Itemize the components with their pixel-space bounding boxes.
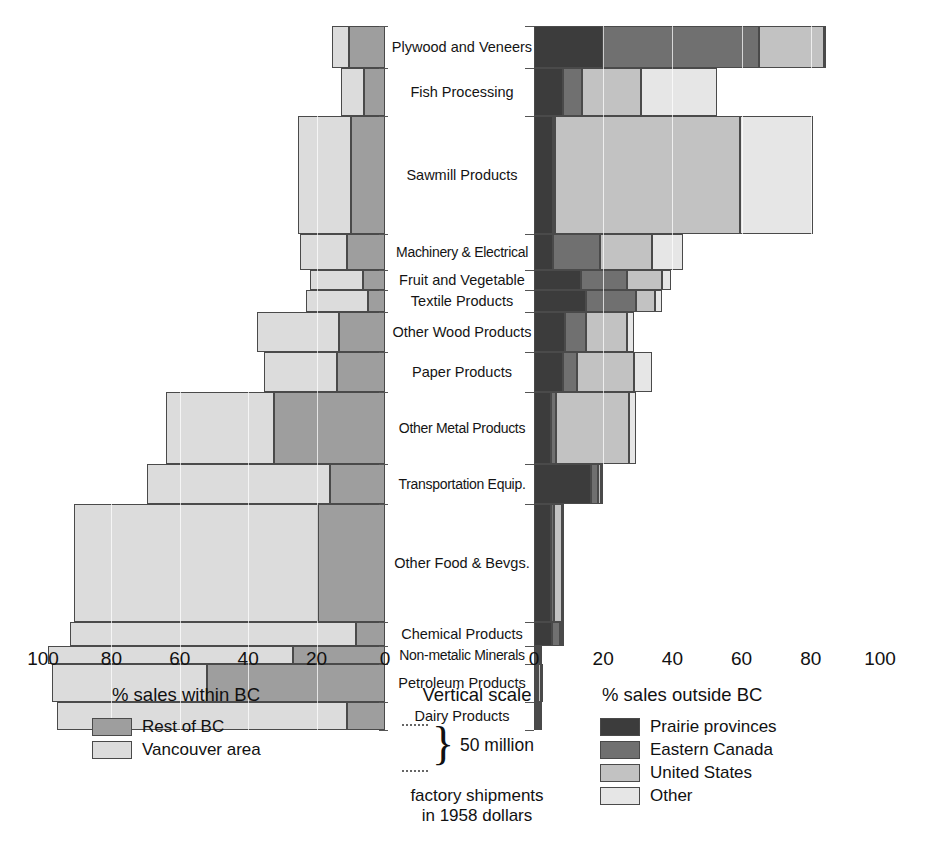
bar-left-9 — [166, 392, 385, 464]
segment-vancouver-area — [70, 622, 356, 646]
category-label: Machinery & Electrical — [388, 245, 536, 259]
x-axis-row: 100806040200020406080100 — [0, 648, 928, 674]
row-tick — [525, 352, 534, 353]
legend-label: Vancouver area — [142, 740, 261, 760]
segment-prairie-provinces — [534, 392, 551, 464]
x-tick-right-60: 60 — [731, 648, 752, 670]
segment-rest-of-bc — [368, 290, 385, 312]
chart-page: Plywood and VeneersFish ProcessingSawmil… — [0, 0, 928, 849]
category-label: Other Metal Products — [388, 421, 536, 435]
segment-vancouver-area — [306, 290, 368, 312]
segment-prairie-provinces — [534, 290, 586, 312]
segment-eastern-canada — [591, 464, 598, 504]
bar-right-1 — [534, 26, 826, 68]
segment-other — [652, 234, 683, 270]
row-tick — [525, 270, 534, 271]
bar-left-8 — [264, 352, 385, 392]
segment-vancouver-area — [300, 234, 348, 270]
segment-prairie-provinces — [534, 352, 563, 392]
segment-rest-of-bc — [364, 68, 385, 116]
segment-prairie-provinces — [534, 464, 591, 504]
segment-other — [824, 26, 826, 68]
segment-rest-of-bc — [274, 392, 385, 464]
row-tick — [525, 234, 534, 235]
segment-eastern-canada — [581, 270, 628, 290]
row-tick — [525, 622, 534, 623]
scale-note: factory shipments in 1958 dollars — [392, 786, 562, 826]
row-tick — [379, 26, 388, 27]
legend-swatch-rest-of-bc — [92, 718, 132, 736]
segment-united-states — [554, 504, 563, 622]
bar-right-10 — [534, 464, 603, 504]
row-tick — [525, 464, 534, 465]
x-tick-right-20: 20 — [593, 648, 614, 670]
legend-item: Vancouver area — [92, 738, 261, 761]
x-tick-right-0: 0 — [529, 648, 540, 670]
scale-bracket: } 50 million — [392, 718, 562, 792]
segment-prairie-provinces — [534, 312, 565, 352]
segment-eastern-canada — [553, 234, 600, 270]
segment-eastern-canada — [563, 352, 577, 392]
scale-bracket-label: 50 million — [460, 735, 534, 756]
legend-right-heading: % sales outside BC — [600, 684, 777, 706]
vertical-scale-legend: Vertical scale } 50 million factory ship… — [392, 684, 562, 826]
category-label: Transportation Equip. — [388, 477, 536, 491]
chart-footer: % sales within BC Rest of BCVancouver ar… — [0, 684, 928, 849]
x-tick-right-40: 40 — [662, 648, 683, 670]
bar-right-7 — [534, 312, 634, 352]
bar-right-8 — [534, 352, 652, 392]
x-tick-left-60: 60 — [169, 648, 190, 670]
x-tick-left-80: 80 — [101, 648, 122, 670]
segment-eastern-canada — [603, 26, 759, 68]
row-tick — [379, 504, 388, 505]
row-tick — [379, 290, 388, 291]
legend-item: Other — [600, 784, 777, 807]
legend-item: Rest of BC — [92, 715, 261, 738]
row-tick — [379, 464, 388, 465]
category-label: Chemical Products — [388, 627, 536, 642]
bar-right-12 — [534, 622, 564, 646]
category-label: Other Wood Products — [388, 325, 536, 340]
row-tick — [525, 646, 534, 647]
segment-vancouver-area — [257, 312, 339, 352]
brace-icon: } — [432, 724, 454, 764]
row-tick — [379, 116, 388, 117]
legend-swatch-other — [600, 787, 640, 805]
legend-item: United States — [600, 761, 777, 784]
legend-label: Eastern Canada — [650, 740, 773, 760]
legend-sales-within-bc: % sales within BC Rest of BCVancouver ar… — [92, 684, 261, 761]
bar-right-3 — [534, 116, 813, 234]
segment-prairie-provinces — [534, 270, 581, 290]
row-tick — [379, 312, 388, 313]
row-tick — [379, 352, 388, 353]
segment-rest-of-bc — [349, 26, 385, 68]
segment-rest-of-bc — [356, 622, 385, 646]
category-label: Plywood and Veneers — [388, 40, 536, 55]
bar-right-6 — [534, 290, 662, 312]
bar-left-4 — [300, 234, 386, 270]
segment-eastern-canada — [565, 312, 586, 352]
scale-dash-top — [402, 724, 428, 726]
segment-other — [562, 622, 564, 646]
segment-rest-of-bc — [351, 116, 385, 234]
segment-other — [655, 290, 662, 312]
segment-rest-of-bc — [339, 312, 385, 352]
row-tick — [525, 26, 534, 27]
legend-item: Eastern Canada — [600, 738, 777, 761]
category-label: Sawmill Products — [388, 168, 536, 183]
x-tick-right-100: 100 — [864, 648, 896, 670]
segment-united-states — [555, 116, 740, 234]
x-tick-left-40: 40 — [238, 648, 259, 670]
legend-item: Prairie provinces — [600, 715, 777, 738]
x-tick-left-100: 100 — [27, 648, 59, 670]
bar-left-3 — [298, 116, 385, 234]
segment-vancouver-area — [147, 464, 330, 504]
segment-vancouver-area — [166, 392, 274, 464]
segment-prairie-provinces — [534, 68, 563, 116]
legend-left-heading: % sales within BC — [92, 684, 261, 706]
bar-left-2 — [341, 68, 385, 116]
row-tick — [525, 116, 534, 117]
vertical-scale-heading: Vertical scale — [392, 684, 562, 706]
row-tick — [379, 646, 388, 647]
segment-united-states — [636, 290, 655, 312]
